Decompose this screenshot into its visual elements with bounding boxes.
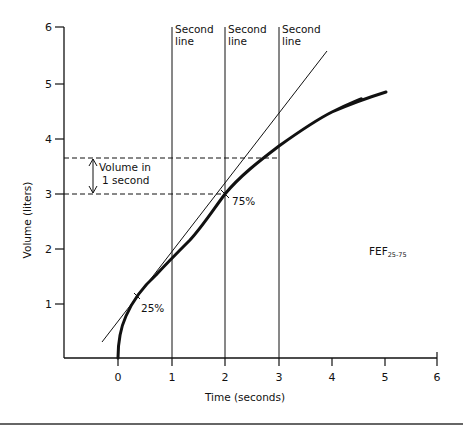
svg-text:6: 6 (45, 21, 52, 34)
volume-arrow (89, 159, 97, 193)
x-axis-title: Time (seconds) (204, 391, 285, 403)
label-25-percent: 25% (141, 302, 164, 314)
svg-text:4: 4 (45, 133, 52, 146)
label-75-percent: 75% (232, 195, 255, 207)
svg-text:line: line (228, 35, 247, 47)
svg-text:3: 3 (45, 188, 52, 201)
svg-text:2: 2 (45, 243, 52, 256)
svg-text:0: 0 (115, 371, 122, 384)
x-ticks (118, 352, 437, 366)
svg-text:6: 6 (434, 371, 441, 384)
volume-time-curve (118, 92, 386, 358)
svg-text:line: line (175, 35, 194, 47)
y-ticks (55, 27, 64, 304)
svg-text:line: line (282, 35, 301, 47)
svg-text:Second: Second (175, 23, 214, 35)
svg-text:5: 5 (45, 78, 52, 91)
svg-text:Second: Second (228, 23, 267, 35)
volume-in-label-2: 1 second (102, 174, 149, 186)
svg-text:5: 5 (382, 371, 389, 384)
svg-text:4: 4 (329, 371, 336, 384)
svg-text:3: 3 (276, 371, 283, 384)
spirometry-chart: 6 5 4 3 2 1 0 1 2 3 4 5 6 Time (seconds)… (0, 0, 463, 425)
volume-in-label-1: Volume in (99, 161, 151, 173)
svg-text:1: 1 (169, 371, 176, 384)
y-tick-labels: 6 5 4 3 2 1 (45, 21, 52, 311)
x-tick-labels: 0 1 2 3 4 5 6 (115, 371, 441, 384)
fef-label: FEF25-75 (369, 245, 407, 259)
y-axis-title: Volume (liters) (21, 182, 33, 259)
svg-text:2: 2 (222, 371, 229, 384)
svg-text:Second: Second (282, 23, 321, 35)
svg-text:1: 1 (45, 298, 52, 311)
second-line-labels: Second line Second line Second line (175, 23, 321, 47)
